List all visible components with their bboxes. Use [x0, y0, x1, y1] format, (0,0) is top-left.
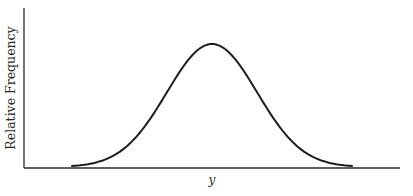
- x-axis-label: y: [208, 173, 216, 187]
- bell-curve-chart: Relative Frequency y: [0, 0, 413, 196]
- y-axis-label: Relative Frequency: [3, 25, 18, 149]
- distribution-curve: [72, 44, 352, 166]
